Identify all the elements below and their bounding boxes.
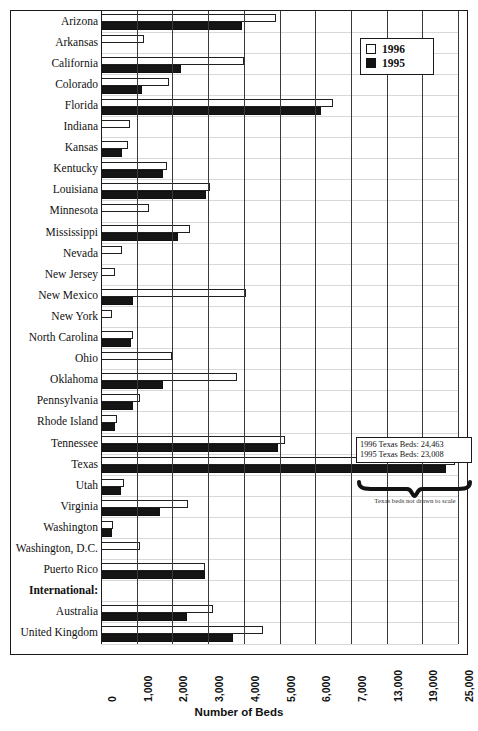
bar-1995-new-mexico xyxy=(101,297,133,305)
plot-area xyxy=(101,11,458,644)
bar-1996-nevada xyxy=(101,246,122,254)
bar-1995-australia xyxy=(101,613,187,621)
category-label-california: California xyxy=(51,57,98,69)
x-tick-label-5000: 5,000 xyxy=(285,676,297,702)
legend-label-1996: 1996 xyxy=(382,43,405,55)
bar-1996-virginia xyxy=(101,500,188,508)
category-label-washington-d-c: Washington, D.C. xyxy=(16,542,98,554)
category-label-arkansas: Arkansas xyxy=(55,36,98,48)
x-tick-label-2000: 2,000 xyxy=(177,676,189,702)
bar-1996-arizona xyxy=(101,14,276,22)
category-label-international: International: xyxy=(29,584,98,596)
bar-1996-australia xyxy=(101,605,213,613)
x-tick-label-7000: 7,000 xyxy=(356,676,368,702)
bar-1996-washington xyxy=(101,521,113,529)
chart-legend: 1996 1995 xyxy=(360,38,434,75)
bar-1995-california xyxy=(101,65,181,73)
texas-callout-1996: 1996 Texas Beds: 24,463 xyxy=(360,440,468,450)
gridline-0 xyxy=(101,11,102,644)
bar-1995-kansas xyxy=(101,149,122,157)
gridline-13000 xyxy=(387,11,388,644)
bar-1995-united-kingdom xyxy=(101,634,233,642)
texas-callout-1995: 1995 Texas Beds: 23,008 xyxy=(360,450,468,460)
category-label-oklahoma: Oklahoma xyxy=(50,373,98,385)
bar-chart: 1996 1995 1996 Texas Beds: 24,463 1995 T… xyxy=(0,0,478,731)
category-label-united-kingdom: United Kingdom xyxy=(20,626,98,638)
figure-footnote xyxy=(0,726,478,731)
x-tick-label-4000: 4,000 xyxy=(249,676,261,702)
gridline-1000 xyxy=(137,11,138,644)
gridline-4000 xyxy=(244,11,245,644)
category-label-indiana: Indiana xyxy=(64,120,98,132)
bar-1995-washington xyxy=(101,529,112,537)
bar-1996-utah xyxy=(101,479,124,487)
category-label-colorado: Colorado xyxy=(55,78,98,90)
bar-1996-new-jersey xyxy=(101,268,115,276)
gridline-19000 xyxy=(422,11,423,644)
bar-1995-mississippi xyxy=(101,233,178,241)
category-label-utah: Utah xyxy=(76,479,98,491)
gridline-5000 xyxy=(280,11,281,644)
category-label-puerto-rico: Puerto Rico xyxy=(43,563,98,575)
gridline-25000 xyxy=(458,11,459,644)
category-label-kentucky: Kentucky xyxy=(53,162,98,174)
texas-brace-icon xyxy=(357,480,472,498)
category-label-tennessee: Tennessee xyxy=(51,437,98,449)
category-label-washington: Washington xyxy=(43,521,98,533)
category-label-nevada: Nevada xyxy=(63,247,98,259)
bar-1996-north-carolina xyxy=(101,331,133,339)
bar-1996-united-kingdom xyxy=(101,626,263,634)
bar-1996-pennsylvania xyxy=(101,394,140,402)
category-label-mississippi: Mississippi xyxy=(46,226,98,238)
x-tick-label-6000: 6,000 xyxy=(320,676,332,702)
texas-callout-box: 1996 Texas Beds: 24,463 1995 Texas Beds:… xyxy=(356,437,472,463)
x-tick-label-13000: 13,000 xyxy=(392,670,404,702)
category-label-louisiana: Louisiana xyxy=(53,183,98,195)
bar-1995-florida xyxy=(101,107,321,115)
bar-1996-rhode-island xyxy=(101,415,117,423)
gridline-7000 xyxy=(351,11,352,644)
bar-1996-new-york xyxy=(101,310,112,318)
bar-1996-indiana xyxy=(101,120,130,128)
category-label-rhode-island: Rhode Island xyxy=(37,415,98,427)
bar-1995-north-carolina xyxy=(101,339,131,347)
category-label-virginia: Virginia xyxy=(61,500,98,512)
x-axis-title: Number of Beds xyxy=(0,706,478,718)
x-tick-label-19000: 19,000 xyxy=(427,670,439,702)
bar-1996-louisiana xyxy=(101,183,210,191)
bar-1995-texas xyxy=(101,465,446,473)
x-tick-label-0: 0 xyxy=(106,696,118,702)
category-label-new-jersey: New Jersey xyxy=(45,268,98,280)
x-tick-label-1000: 1,000 xyxy=(142,676,154,702)
gridline-2000 xyxy=(172,11,173,644)
bar-1995-utah xyxy=(101,487,121,495)
bar-1995-tennessee xyxy=(101,444,278,452)
legend-label-1995: 1995 xyxy=(382,57,405,69)
gridline-6000 xyxy=(315,11,316,644)
bar-1995-oklahoma xyxy=(101,381,163,389)
category-label-new-york: New York xyxy=(51,310,98,322)
category-label-kansas: Kansas xyxy=(65,141,98,153)
bar-1995-louisiana xyxy=(101,191,206,199)
category-label-arizona: Arizona xyxy=(61,15,98,27)
gridline-3000 xyxy=(208,11,209,644)
bar-1995-virginia xyxy=(101,508,160,516)
bar-1996-mississippi xyxy=(101,225,190,233)
legend-swatch-1996 xyxy=(366,44,376,54)
legend-item-1996: 1996 xyxy=(366,42,428,56)
bar-1996-kentucky xyxy=(101,162,167,170)
bar-1996-tennessee xyxy=(101,436,285,444)
category-label-florida: Florida xyxy=(65,99,98,111)
texas-scale-note: Texas beds not drawn to scale xyxy=(356,497,474,504)
bar-1995-kentucky xyxy=(101,170,163,178)
x-axis-ticks: 01,0002,0003,0004,0005,0006,0007,00013,0… xyxy=(0,658,478,704)
category-label-new-mexico: New Mexico xyxy=(38,289,98,301)
legend-item-1995: 1995 xyxy=(366,56,428,70)
bar-1996-oklahoma xyxy=(101,373,237,381)
bar-1995-rhode-island xyxy=(101,423,115,431)
bar-1996-puerto-rico xyxy=(101,563,205,571)
category-label-australia: Australia xyxy=(56,605,98,617)
bar-1996-colorado xyxy=(101,78,169,86)
bar-1996-kansas xyxy=(101,141,128,149)
bar-1995-pennsylvania xyxy=(101,402,133,410)
